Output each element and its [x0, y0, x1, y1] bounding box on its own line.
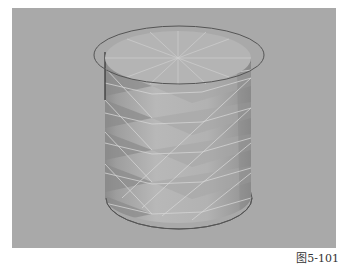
figure-caption: 图5-101 — [296, 249, 339, 265]
scene — [12, 8, 336, 248]
cylinder-top-cap[interactable] — [105, 31, 251, 85]
3d-viewport[interactable] — [12, 8, 336, 248]
